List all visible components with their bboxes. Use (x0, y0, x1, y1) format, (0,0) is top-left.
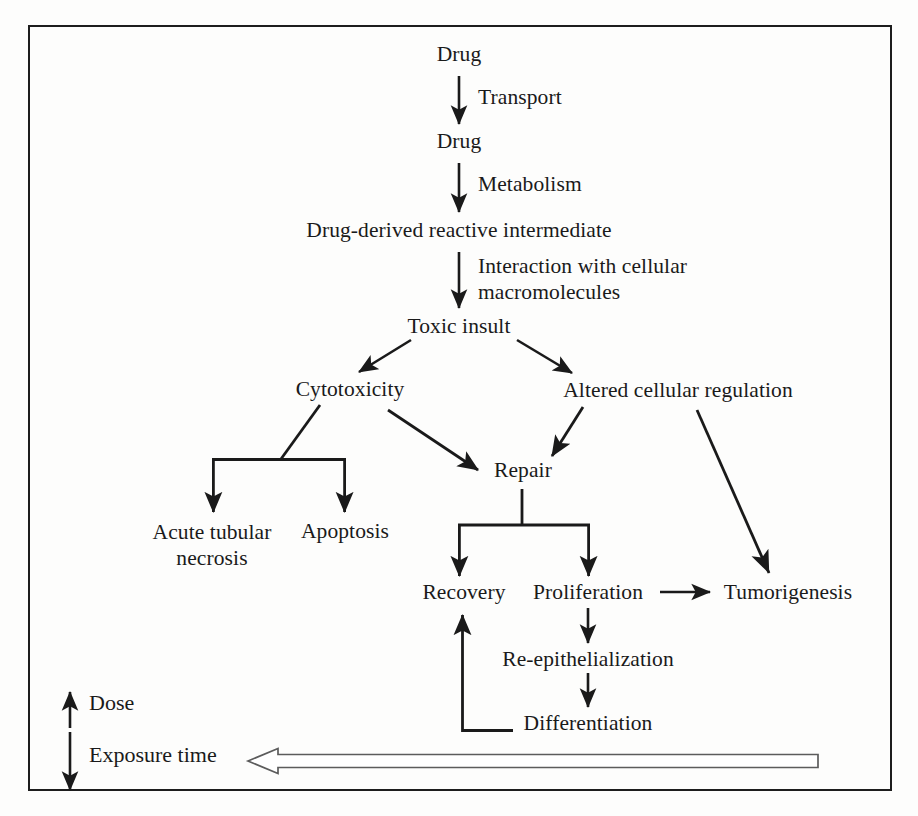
node-drug-parent: Drug (437, 42, 482, 66)
node-reactive-intermediate: Drug-derived reactive intermediate (306, 218, 611, 242)
edge-label-metabolism: Metabolism (478, 172, 582, 196)
axis-label-dose: Dose (89, 690, 134, 716)
acute-tubular-necrosis-line1: Acute tubular (153, 520, 272, 544)
edge-toxic-insult-to-cytotoxicity (359, 340, 411, 372)
node-repair: Repair (494, 458, 552, 482)
acute-tubular-necrosis-line2: necrosis (176, 546, 247, 570)
axis-label-exposure-time: Exposure time (89, 742, 217, 768)
edge-altered-regulation-to-tumorigenesis (697, 410, 769, 573)
node-differentiation: Differentiation (524, 711, 653, 735)
node-cytotoxicity: Cytotoxicity (296, 377, 405, 401)
edge-cytotoxicity-fork-stem (281, 405, 320, 459)
edge-toxic-insult-to-altered-regulation (517, 340, 572, 373)
gradient-hollow-left-arrow (248, 749, 818, 774)
edge-cytotoxicity-to-repair (388, 410, 478, 470)
interaction-line2: macromolecules (478, 280, 620, 304)
node-re-epithelialization: Re-epithelialization (502, 647, 674, 671)
node-recovery: Recovery (422, 580, 505, 604)
node-proliferation: Proliferation (533, 580, 643, 604)
edge-label-interaction: Interaction with cellular macromolecules (478, 253, 687, 305)
node-drug-cell: Drug (437, 129, 482, 153)
node-altered-cellular-regulation: Altered cellular regulation (563, 378, 793, 402)
flowchart-connectors (0, 0, 918, 816)
interaction-line1: Interaction with cellular (478, 254, 687, 278)
node-toxic-insult: Toxic insult (407, 314, 510, 338)
edge-altered-regulation-to-repair (552, 407, 583, 456)
figure-canvas: Drug Drug Drug-derived reactive intermed… (0, 0, 918, 816)
edge-label-transport: Transport (478, 85, 562, 109)
node-tumorigenesis: Tumorigenesis (724, 580, 852, 604)
node-acute-tubular-necrosis: Acute tubular necrosis (153, 519, 272, 571)
edge-differentiation-to-recovery (463, 615, 514, 731)
node-apoptosis: Apoptosis (301, 519, 389, 543)
